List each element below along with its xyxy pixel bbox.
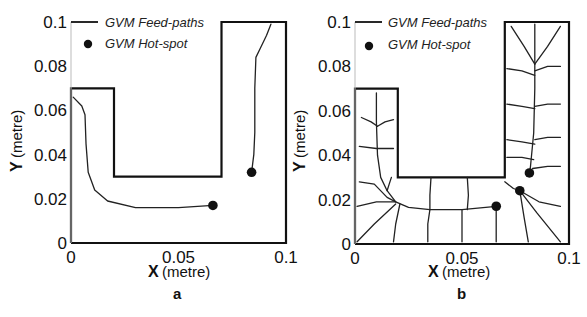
feed-path (520, 191, 529, 242)
feed-path (507, 69, 535, 76)
hot-spot-marker (247, 167, 257, 177)
feed-path (507, 104, 535, 109)
legend-feed-paths: GVM Feed-paths (388, 15, 487, 30)
x-axis-label-bold: X (428, 263, 439, 280)
feed-path (73, 97, 213, 208)
feed-path (535, 66, 561, 70)
feed-path (533, 166, 561, 168)
hot-spots (491, 168, 534, 211)
feed-path (361, 118, 377, 127)
x-axis-label-bold: X (148, 263, 159, 280)
y-tick-label: 0.1 (327, 13, 351, 32)
x-axis-label-unit: (metre) (162, 263, 210, 280)
legend: GVM Feed-paths GVM Hot-spot (355, 15, 487, 52)
figure: 00.020.040.060.080.100.050.1 GVM Feed-pa… (0, 0, 587, 317)
panel-label-b: b (457, 285, 466, 302)
feed-path (394, 204, 400, 242)
y-tick-label: 0.1 (43, 13, 67, 32)
y-tick-label: 0.08 (34, 57, 67, 76)
x-axis-label-unit: (metre) (442, 263, 490, 280)
feed-path (467, 177, 468, 209)
feed-path (430, 177, 431, 209)
feed-path (428, 210, 430, 242)
y-tick-label: 0.08 (318, 57, 351, 76)
hot-spots (208, 167, 256, 210)
legend-dot-icon (365, 42, 373, 50)
feed-path (359, 146, 393, 148)
y-axis-label-unit: (metre) (291, 110, 308, 158)
y-axis-label-bold: Y (8, 161, 25, 172)
panel-label-a: a (173, 285, 182, 302)
feed-path (535, 26, 561, 64)
feed-path (511, 26, 535, 64)
feed-path (535, 137, 561, 139)
feed-paths (357, 24, 560, 242)
feed-path (535, 104, 561, 106)
y-tick-label: 0.02 (318, 191, 351, 210)
feed-path (507, 157, 534, 159)
y-axis-label-bold: Y (291, 161, 308, 172)
panel-a: 00.020.040.060.080.100.050.1 GVM Feed-pa… (8, 13, 298, 302)
legend-dot-icon (84, 40, 92, 48)
legend: GVM Feed-paths GVM Hot-spot (71, 15, 204, 51)
x-tick-label: 0.1 (557, 249, 581, 268)
y-tick-label: 0.06 (318, 102, 351, 121)
hot-spot-marker (491, 201, 501, 211)
x-tick-label: 0 (66, 248, 75, 267)
feed-path (357, 204, 396, 242)
y-tick-label: 0.02 (34, 190, 67, 209)
y-tick-label: 0.06 (34, 101, 67, 120)
feed-path (357, 202, 396, 207)
feed-path (378, 120, 394, 127)
hot-spot-marker (515, 186, 525, 196)
domain-outline (71, 22, 286, 243)
feed-path (520, 191, 561, 242)
hot-spot-marker (525, 168, 535, 178)
legend-feed-paths: GVM Feed-paths (105, 15, 204, 30)
feed-path (529, 24, 534, 173)
panel-b: 00.020.040.060.080.100.050.1 GVM Feed-pa… (291, 13, 581, 302)
feed-path (252, 24, 271, 172)
hot-spot-marker (208, 201, 218, 211)
feed-path (507, 140, 535, 144)
feed-paths (73, 24, 271, 207)
feed-path (387, 177, 391, 190)
y-tick-label: 0.04 (34, 146, 67, 165)
feed-path (359, 182, 395, 202)
feed-path (376, 93, 496, 210)
y-tick-label: 0.04 (318, 146, 351, 165)
legend-hot-spot: GVM Hot-spot (105, 36, 189, 51)
y-axis-label-unit: (metre) (8, 110, 25, 158)
legend-hot-spot: GVM Hot-spot (388, 37, 472, 52)
x-tick-label: 0.1 (274, 248, 298, 267)
x-tick-label: 0 (350, 249, 359, 268)
